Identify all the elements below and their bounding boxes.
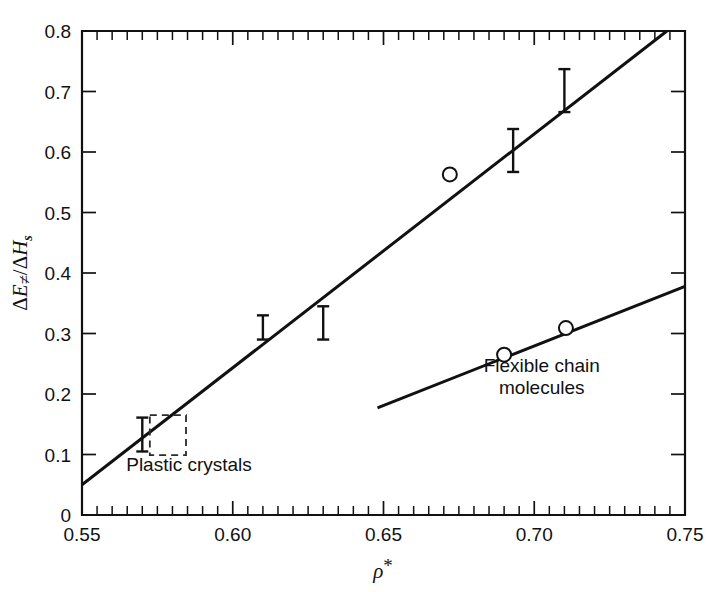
y-title-delta-1: Δ bbox=[8, 297, 32, 311]
x-tick-label: 0.70 bbox=[516, 524, 553, 545]
y-title-E: E bbox=[8, 284, 32, 298]
y-axis-tick-labels: 00.10.20.30.40.50.60.70.8 bbox=[45, 21, 72, 526]
y-tick-label: 0.1 bbox=[45, 445, 71, 466]
y-tick-label: 0.7 bbox=[45, 82, 71, 103]
data-point-circle bbox=[559, 321, 573, 335]
x-tick-label: 0.60 bbox=[214, 524, 251, 545]
svg-text:ΔE≠/ΔHs: ΔE≠/ΔHs bbox=[8, 235, 35, 311]
y-title-delta-2: Δ bbox=[8, 256, 32, 270]
annotation-flexible-chain-2: molecules bbox=[499, 377, 585, 398]
error-bar bbox=[257, 315, 269, 339]
dashed-region-box bbox=[150, 415, 186, 455]
error-bar bbox=[317, 306, 329, 339]
error-bar bbox=[507, 129, 519, 172]
y-tick-label: 0.5 bbox=[45, 203, 71, 224]
axis-frame bbox=[82, 31, 685, 515]
annotation-flexible-chain-1: Flexible chain bbox=[484, 355, 600, 376]
x-axis-tick-labels: 0.550.600.650.700.75 bbox=[64, 524, 704, 545]
data-point-circle bbox=[443, 167, 457, 181]
x-tick-label: 0.55 bbox=[64, 524, 101, 545]
x-axis-ticks bbox=[82, 31, 685, 515]
x-tick-label: 0.65 bbox=[365, 524, 402, 545]
y-title-sub-s: s bbox=[20, 235, 35, 242]
x-axis-title: ρ* bbox=[372, 555, 393, 583]
x-title-star: * bbox=[383, 555, 393, 576]
svg-text:ρ*: ρ* bbox=[372, 555, 393, 583]
y-tick-label: 0.8 bbox=[45, 21, 71, 42]
scatter-plot: 0.550.600.650.700.75 00.10.20.30.40.50.6… bbox=[0, 0, 712, 592]
figure-container: 0.550.600.650.700.75 00.10.20.30.40.50.6… bbox=[0, 0, 712, 592]
y-axis-ticks bbox=[82, 31, 685, 515]
region-shapes bbox=[150, 415, 186, 455]
y-tick-label: 0.2 bbox=[45, 384, 71, 405]
data-point-markers bbox=[443, 167, 573, 361]
annotation-plastic-crystals: Plastic crystals bbox=[126, 454, 252, 475]
chart-annotations: Plastic crystalsFlexible chainmolecules bbox=[126, 355, 600, 475]
y-tick-label: 0.6 bbox=[45, 142, 71, 163]
y-tick-label: 0.4 bbox=[45, 263, 72, 284]
x-tick-label: 0.75 bbox=[667, 524, 704, 545]
y-title-neq: ≠ bbox=[15, 275, 34, 284]
trend-line bbox=[82, 31, 667, 485]
x-title-rho: ρ bbox=[372, 559, 383, 583]
y-tick-label: 0 bbox=[60, 505, 71, 526]
trend-lines bbox=[82, 31, 685, 485]
y-tick-label: 0.3 bbox=[45, 324, 71, 345]
y-axis-title: ΔE≠/ΔHs bbox=[8, 235, 35, 311]
